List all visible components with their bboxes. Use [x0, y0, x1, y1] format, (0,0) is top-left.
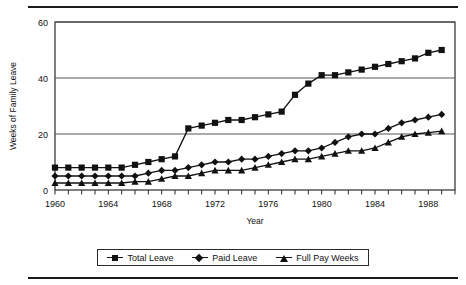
y-tick-label-60: 60 — [38, 18, 48, 28]
series-point-total-leave-1962 — [79, 165, 85, 171]
series-point-total-leave-1971 — [199, 123, 205, 129]
series-point-paid-leave-1981 — [331, 139, 338, 146]
series-point-total-leave-1968 — [159, 156, 165, 162]
x-tick-label-1988: 1988 — [418, 199, 438, 209]
x-axis-title: Year — [246, 216, 263, 226]
series-point-total-leave-1975 — [252, 114, 258, 120]
series-point-paid-leave-1983 — [358, 130, 365, 137]
triangle-marker-icon — [276, 253, 292, 262]
series-point-total-leave-1981 — [332, 72, 338, 78]
series-point-total-leave-1976 — [265, 111, 271, 117]
legend-item-full-pay-weeks: Full Pay Weeks — [276, 253, 358, 263]
series-point-paid-leave-1961 — [65, 172, 72, 179]
series-point-paid-leave-1960 — [51, 172, 58, 179]
y-tick-label-40: 40 — [38, 74, 48, 84]
series-point-paid-leave-1987 — [411, 116, 418, 123]
series-line-paid-leave — [55, 114, 442, 176]
series-point-paid-leave-1975 — [251, 156, 258, 163]
series-point-paid-leave-1964 — [105, 172, 112, 179]
series-point-paid-leave-1985 — [385, 125, 392, 132]
series-point-paid-leave-1984 — [371, 130, 378, 137]
series-point-paid-leave-1977 — [278, 150, 285, 157]
series-point-paid-leave-1962 — [78, 172, 85, 179]
series-point-paid-leave-1972 — [211, 158, 218, 165]
x-tick-label-1968: 1968 — [152, 199, 172, 209]
y-axis-title: Weeks of Family Leave — [8, 62, 18, 150]
series-point-full-pay-weeks-1984 — [371, 144, 378, 151]
series-line-full-pay-weeks — [55, 131, 442, 183]
series-line-total-leave — [55, 50, 442, 168]
series-point-total-leave-1970 — [185, 125, 191, 131]
series-point-total-leave-1963 — [92, 165, 98, 171]
series-point-total-leave-1986 — [399, 58, 405, 64]
series-point-total-leave-1965 — [119, 165, 125, 171]
series-point-paid-leave-1968 — [158, 167, 165, 174]
x-tick-label-1964: 1964 — [98, 199, 118, 209]
series-point-total-leave-1979 — [305, 81, 311, 87]
diamond-marker-icon — [192, 253, 208, 262]
series-point-total-leave-1967 — [145, 159, 151, 165]
y-tick-label-0: 0 — [43, 186, 48, 196]
series-point-total-leave-1977 — [279, 109, 285, 115]
x-tick-label-1980: 1980 — [312, 199, 332, 209]
series-point-paid-leave-1989 — [438, 111, 445, 118]
series-point-paid-leave-1988 — [425, 114, 432, 121]
series-point-total-leave-1980 — [319, 72, 325, 78]
series-point-total-leave-1983 — [359, 67, 365, 73]
square-marker-icon — [107, 253, 123, 262]
chart-legend: Total Leave Paid Leave Full Pay Weeks — [97, 249, 369, 266]
series-point-paid-leave-1970 — [185, 164, 192, 171]
series-point-paid-leave-1978 — [291, 147, 298, 154]
series-point-total-leave-1966 — [132, 162, 138, 168]
series-point-paid-leave-1974 — [238, 156, 245, 163]
series-point-total-leave-1985 — [385, 61, 391, 67]
series-point-full-pay-weeks-1985 — [385, 139, 392, 146]
series-point-total-leave-1969 — [172, 153, 178, 159]
series-point-total-leave-1984 — [372, 64, 378, 70]
series-point-paid-leave-1965 — [118, 172, 125, 179]
legend-label-full-pay-weeks: Full Pay Weeks — [296, 253, 358, 263]
series-point-paid-leave-1980 — [318, 144, 325, 151]
chart-figure: 020406019601964196819721976198019841988Y… — [0, 0, 466, 285]
line-chart-canvas: 020406019601964196819721976198019841988Y… — [0, 0, 466, 285]
series-point-total-leave-1972 — [212, 120, 218, 126]
series-point-paid-leave-1973 — [225, 158, 232, 165]
series-point-paid-leave-1986 — [398, 119, 405, 126]
x-tick-label-1972: 1972 — [205, 199, 225, 209]
series-point-total-leave-1961 — [65, 165, 71, 171]
series-point-paid-leave-1979 — [305, 147, 312, 154]
series-point-total-leave-1964 — [105, 165, 111, 171]
legend-item-paid-leave: Paid Leave — [192, 253, 257, 263]
series-point-total-leave-1973 — [225, 117, 231, 123]
series-point-paid-leave-1976 — [265, 153, 272, 160]
y-tick-label-20: 20 — [38, 130, 48, 140]
series-point-total-leave-1987 — [412, 55, 418, 61]
series-point-total-leave-1974 — [239, 117, 245, 123]
legend-item-total-leave: Total Leave — [107, 253, 173, 263]
legend-label-total-leave: Total Leave — [127, 253, 173, 263]
bottom-divider — [28, 277, 458, 279]
legend-label-paid-leave: Paid Leave — [212, 253, 257, 263]
series-point-total-leave-1982 — [345, 69, 351, 75]
series-point-total-leave-1988 — [425, 50, 431, 56]
series-point-paid-leave-1967 — [145, 170, 152, 177]
series-point-total-leave-1989 — [439, 47, 445, 53]
x-tick-label-1976: 1976 — [258, 199, 278, 209]
series-point-paid-leave-1971 — [198, 161, 205, 168]
x-tick-label-1984: 1984 — [365, 199, 385, 209]
series-point-total-leave-1978 — [292, 92, 298, 98]
series-point-total-leave-1960 — [52, 165, 58, 171]
x-tick-label-1960: 1960 — [45, 199, 65, 209]
series-point-paid-leave-1963 — [91, 172, 98, 179]
